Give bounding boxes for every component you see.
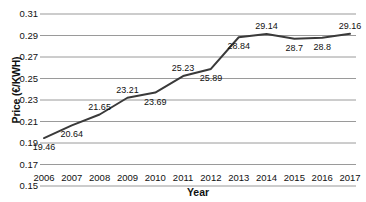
y-axis-tick-label: 0.21: [2, 117, 38, 127]
y-axis-tick-label: 0.29: [2, 31, 38, 41]
y-axis-tick-label: 0.31: [2, 9, 38, 19]
line-chart: Price (€/KWH) 0.310.290.270.250.230.210.…: [0, 0, 366, 202]
x-axis-tick-labels: 2006200720082009201020112012201320142015…: [40, 0, 356, 202]
y-axis-tick-label: 0.23: [2, 95, 38, 105]
y-axis-tick-label: 0.25: [2, 74, 38, 84]
x-axis-tick-label: 2017: [333, 172, 366, 183]
x-axis-title: Year: [40, 186, 356, 198]
y-axis-tick-label: 0.27: [2, 52, 38, 62]
y-axis-tick-label: 0.17: [2, 160, 38, 170]
